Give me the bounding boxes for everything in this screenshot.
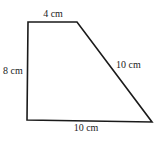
top-side-label: 4 cm bbox=[43, 8, 63, 19]
trapezoid-diagram: 4 cm 8 cm 10 cm 10 cm bbox=[0, 0, 155, 141]
trapezoid-shape bbox=[27, 22, 152, 122]
left-side-label: 8 cm bbox=[3, 65, 23, 76]
bottom-side-label: 10 cm bbox=[74, 122, 99, 133]
slant-side-label: 10 cm bbox=[116, 59, 141, 70]
